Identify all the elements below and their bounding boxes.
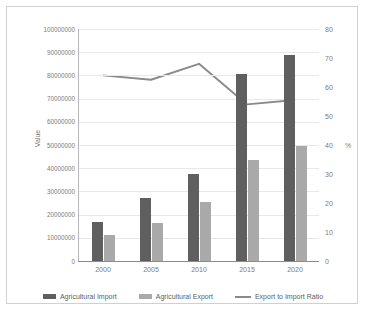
gridline (79, 52, 319, 53)
y-axis-tick-label: 0 (71, 258, 75, 265)
y2-axis-tick-label: 0 (325, 258, 329, 265)
y-axis-tick-label: 80000000 (47, 72, 75, 79)
legend-line-icon (235, 296, 251, 298)
x-axis-tick-label: 2015 (223, 266, 271, 273)
y-axis-title: Value (34, 130, 41, 147)
y2-axis-tick-label: 60 (325, 84, 333, 91)
legend-item[interactable]: Agricultural Import (43, 293, 117, 300)
y-axis-tick-label: 10000000 (47, 234, 75, 241)
legend-item[interactable]: Agricultural Export (139, 293, 213, 300)
y-axis-left-labels: 0100000002000000030000000400000005000000… (7, 7, 75, 320)
chart-legend: Agricultural ImportAgricultural ExportEx… (7, 293, 359, 300)
bar-agricultural-export (296, 146, 307, 261)
y-axis-tick-label: 30000000 (47, 188, 75, 195)
y-axis-tick-label: 20000000 (47, 211, 75, 218)
legend-item-label: Agricultural Import (60, 293, 117, 300)
legend-swatch-icon (139, 294, 152, 299)
y2-axis-tick-label: 50 (325, 113, 333, 120)
y2-axis-tick-label: 70 (325, 55, 333, 62)
y2-axis-tick-label: 30 (325, 171, 333, 178)
y2-axis-tick-label: 80 (325, 26, 333, 33)
y-axis-tick-label: 70000000 (47, 95, 75, 102)
y2-axis-tick-label: 10 (325, 229, 333, 236)
y2-axis-tick-label: 20 (325, 200, 333, 207)
x-axis-tick-label: 2020 (271, 266, 319, 273)
bar-agricultural-import (284, 55, 295, 261)
x-axis-tick-label: 2000 (79, 266, 127, 273)
bar-agricultural-import (188, 174, 199, 261)
bar-agricultural-export (248, 160, 259, 261)
legend-item-label: Export to Import Ratio (255, 293, 323, 300)
legend-item[interactable]: Export to Import Ratio (235, 293, 323, 300)
plot-area (79, 29, 319, 261)
bar-agricultural-import (236, 74, 247, 261)
legend-item-label: Agricultural Export (156, 293, 213, 300)
bar-agricultural-import (92, 222, 103, 261)
y-axis-tick-label: 50000000 (47, 142, 75, 149)
bar-agricultural-export (200, 202, 211, 261)
bar-agricultural-export (152, 223, 163, 261)
legend-swatch-icon (43, 294, 56, 299)
y2-axis-title: % (345, 142, 351, 149)
x-axis-tick-label: 2005 (127, 266, 175, 273)
y-axis-tick-label: 90000000 (47, 49, 75, 56)
y2-axis-tick-label: 40 (325, 142, 333, 149)
x-axis-line (78, 261, 319, 262)
y-axis-right-labels: 01020304050607080 (325, 7, 365, 320)
chart-frame: 0100000002000000030000000400000005000000… (6, 6, 358, 304)
bar-agricultural-import (140, 198, 151, 261)
y-axis-tick-label: 60000000 (47, 118, 75, 125)
x-axis-tick-label: 2010 (175, 266, 223, 273)
y-axis-tick-label: 100000000 (43, 26, 75, 33)
y-axis-tick-label: 40000000 (47, 165, 75, 172)
gridline (79, 29, 319, 30)
bar-agricultural-export (104, 235, 115, 261)
